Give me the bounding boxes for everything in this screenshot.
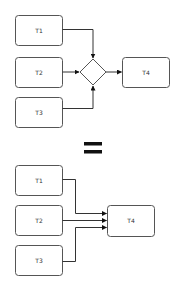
bottom-diagram: T1 T2 T3 T4 <box>16 166 155 276</box>
bottom-node-t2[interactable]: T2 <box>16 206 63 236</box>
bottom-node-t1[interactable]: T1 <box>16 166 63 196</box>
node-label: T2 <box>34 217 43 224</box>
node-label: T1 <box>34 177 43 184</box>
top-node-t4[interactable]: T4 <box>123 58 170 88</box>
node-label: T3 <box>34 257 43 264</box>
edge-t3-t4 <box>63 228 107 262</box>
node-label: T3 <box>34 109 43 116</box>
bottom-node-t4[interactable]: T4 <box>108 206 155 237</box>
top-diagram: T1 T2 T3 T4 <box>16 16 170 128</box>
node-label: T1 <box>34 27 43 34</box>
edge-t3-gateway <box>63 86 94 109</box>
top-node-t1[interactable]: T1 <box>16 16 63 46</box>
top-node-t2[interactable]: T2 <box>16 58 63 88</box>
equals-sign <box>84 142 102 154</box>
edge-t1-gateway <box>63 30 94 59</box>
node-label: T4 <box>126 217 135 224</box>
top-node-t3[interactable]: T3 <box>16 98 63 128</box>
node-label: T2 <box>34 69 43 76</box>
edge-t1-t4 <box>63 180 107 214</box>
gateway-diamond[interactable] <box>80 59 106 85</box>
bottom-node-t3[interactable]: T3 <box>16 246 63 276</box>
diagram-canvas: T1 T2 T3 T4 T1 T2 <box>0 0 181 292</box>
node-label: T4 <box>141 69 150 76</box>
